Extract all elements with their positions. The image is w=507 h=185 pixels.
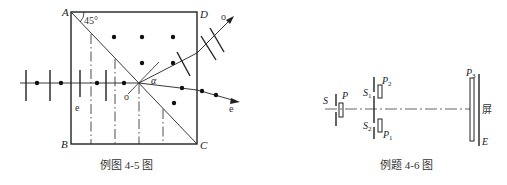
ray-o-label: o — [221, 11, 226, 22]
o-ray-tick — [177, 52, 190, 76]
o-ray-tick — [201, 36, 216, 60]
source-label: S — [323, 95, 328, 106]
p2-label: P2 — [381, 75, 392, 88]
polarizer-p — [339, 103, 343, 117]
inner-o-label: o — [124, 91, 129, 102]
corner-label-d: D — [199, 8, 208, 20]
o-ray-tick — [210, 28, 224, 52]
corner-label-a: A — [61, 6, 69, 18]
polarizer-p1 — [378, 119, 382, 132]
polarizer-p3 — [470, 78, 474, 141]
slit2-label: S2 — [363, 120, 372, 133]
prism-figure — [20, 12, 240, 144]
slit1-label: S1 — [363, 87, 372, 100]
ray-e-label: e — [229, 103, 234, 114]
polarizer-p2 — [378, 85, 382, 98]
diagonal-ac — [71, 12, 197, 144]
polarizer-label: P — [341, 90, 348, 101]
double-slit-figure — [325, 74, 479, 146]
p1-label: P1 — [382, 129, 393, 142]
angle-label: 45° — [84, 15, 98, 26]
figure-caption-left: 例图 4-5 图 — [100, 158, 153, 171]
o-ray — [139, 19, 231, 83]
corner-label-b: B — [61, 138, 68, 150]
alpha-label: α — [151, 75, 157, 86]
inner-e-label: e — [75, 102, 80, 113]
screen-label: 屏 — [482, 104, 492, 115]
figure-canvas: A D B C 45° α o e o e 例图 4-5 图 S P S1 S2… — [0, 0, 507, 185]
corner-label-c: C — [200, 139, 208, 151]
screen-e-label: E — [481, 136, 488, 147]
figure-caption-right: 例题 4-6 图 — [380, 158, 433, 171]
